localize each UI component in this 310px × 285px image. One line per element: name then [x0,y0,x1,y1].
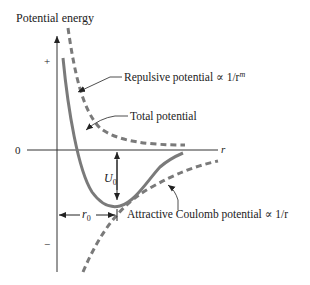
x-axis-label: r [221,143,226,155]
repulsive-label: Repulsive potential ∝ 1/rm [124,70,245,84]
repulsive-curve [68,28,185,145]
minus-label: − [44,238,50,250]
well-depth-label: U0 [104,171,117,187]
repulsive-leader [78,77,122,92]
y-axis-label: Potential energy [16,11,94,25]
equilibrium-label: r0 [82,207,91,223]
attractive-leader [168,185,178,210]
plus-label: + [44,55,50,67]
attractive-label: Attractive Coulomb potential ∝ 1/r [127,208,288,221]
potential-energy-diagram: Potential energy 0 + − r Repulsive poten… [0,0,310,285]
total-label: Total potential [130,110,197,123]
zero-label: 0 [15,144,21,156]
